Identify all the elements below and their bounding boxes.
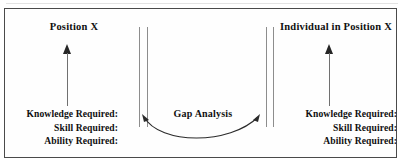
arrowhead-left bbox=[142, 114, 149, 122]
left-requirements-block: Knowledge Required: Skill Required: Abil… bbox=[8, 107, 118, 148]
arrow-shaft bbox=[329, 53, 330, 106]
double-headed-curved-arrow-icon bbox=[130, 105, 275, 150]
requirement-line-ability: Ability Required: bbox=[8, 134, 118, 148]
arrow-up-icon-right bbox=[324, 44, 336, 106]
requirement-line-knowledge: Knowledge Required: bbox=[285, 107, 397, 121]
arrow-shaft bbox=[67, 53, 68, 106]
right-requirements-block: Knowledge Required: Skill Required: Abil… bbox=[285, 107, 397, 148]
individual-in-position-x-title: Individual in Position X bbox=[272, 21, 400, 32]
requirement-line-skill: Skill Required: bbox=[8, 121, 118, 135]
arrow-up-icon-left bbox=[62, 44, 74, 106]
curve-path bbox=[144, 117, 258, 138]
scan-artifact-line bbox=[6, 3, 398, 4]
position-x-title: Position X bbox=[14, 21, 134, 32]
requirement-line-ability: Ability Required: bbox=[285, 134, 397, 148]
requirement-line-knowledge: Knowledge Required: bbox=[8, 107, 118, 121]
requirement-line-skill: Skill Required: bbox=[285, 121, 397, 135]
diagram-canvas: Position X Individual in Position X Know… bbox=[0, 0, 407, 168]
